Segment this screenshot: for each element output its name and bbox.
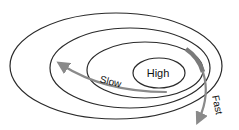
concentric-ellipse-diagram: High Slow Fast xyxy=(0,0,239,130)
slow-label: Slow xyxy=(99,74,123,90)
center-label: High xyxy=(147,67,170,79)
second-ring xyxy=(50,28,210,108)
fast-label: Fast xyxy=(210,94,225,116)
